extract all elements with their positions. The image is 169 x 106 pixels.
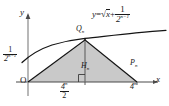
- point-label-Hn: Hn: [81, 62, 89, 70]
- y-intercept-denominator-exponent: n−1: [8, 53, 16, 58]
- point-label-Pn: Pn: [130, 59, 137, 67]
- denominator-exponent: n−1: [121, 14, 129, 19]
- origin-label: O: [20, 76, 27, 85]
- point-dot-Qn: [84, 39, 86, 41]
- y-intercept-label: 12n−1: [3, 46, 17, 63]
- y-intercept-denominator: 2n−1: [3, 54, 17, 63]
- x-tick-mid-fraction: 4n2: [60, 83, 69, 100]
- equation-fraction: 12n−1: [115, 5, 130, 24]
- x-tick-mid-denominator: 2: [60, 91, 69, 100]
- x-tick-max-exponent: n: [134, 81, 137, 86]
- x-tick-label-mid: 4n2: [60, 83, 69, 100]
- y-axis-label: y: [20, 8, 24, 17]
- point-Hn-base: H: [81, 61, 87, 70]
- point-Pn-subscript: n: [135, 63, 138, 68]
- denominator-base: 2: [116, 14, 121, 24]
- point-Qn-subscript: n: [82, 29, 85, 34]
- fraction-denominator: 2n−1: [115, 14, 130, 24]
- sqrt-argument: x: [106, 9, 110, 19]
- point-Qn-base: Q: [76, 24, 82, 33]
- x-axis-label: x: [156, 75, 160, 84]
- sqrt-overbar: [106, 9, 110, 10]
- sqrt-group: √x: [101, 9, 110, 19]
- x-tick-label-max: 4n: [130, 83, 137, 91]
- curve-equation-label: y=√x+12n−1: [92, 5, 130, 24]
- point-label-Qn: Qn: [76, 25, 84, 33]
- fraction-numerator: 1: [115, 5, 130, 14]
- point-Hn-subscript: n: [87, 66, 90, 71]
- x-tick-mid-numerator: 4n: [60, 83, 69, 91]
- y-axis-arrowhead: [26, 13, 31, 19]
- figure-canvas: [0, 0, 169, 106]
- y-intercept-fraction: 12n−1: [3, 46, 17, 63]
- x-tick-mid-numerator-exponent: n: [65, 81, 68, 86]
- math-figure: y=√x+12n−1 y x O 12n−1 Qn Pn Hn 4n2 4n: [0, 0, 169, 106]
